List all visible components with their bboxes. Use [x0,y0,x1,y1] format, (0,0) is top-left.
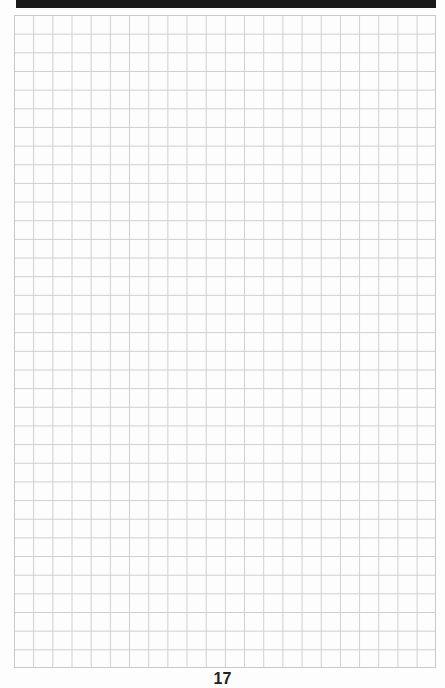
page-number: 17 [0,670,445,688]
graph-grid [14,15,436,668]
header-bar [16,0,436,8]
